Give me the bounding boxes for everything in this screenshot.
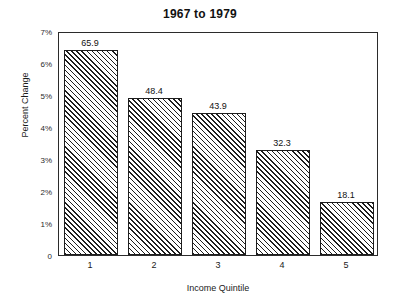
y-axis-tick-label: 2% (40, 188, 52, 197)
y-axis-tick-label: 7% (40, 28, 52, 37)
x-axis-title: Income Quintile (58, 283, 378, 293)
x-axis-tick-label: 2 (151, 260, 156, 270)
chart-title: 1967 to 1979 (0, 7, 400, 21)
y-axis-tick-label: 1% (40, 220, 52, 229)
y-axis-tick-label: 6% (40, 60, 52, 69)
y-axis-tick-label: 3% (40, 156, 52, 165)
x-axis-tick-label: 3 (215, 260, 220, 270)
x-axis-tick-label: 5 (343, 260, 348, 270)
bar (256, 150, 309, 255)
y-axis-tick-label: 4% (40, 124, 52, 133)
bar (192, 113, 245, 255)
bar (128, 98, 181, 255)
y-axis-tick-labels: 01%2%3%4%5%6%7% (0, 0, 54, 303)
plot-area (58, 32, 378, 256)
bar (320, 202, 373, 255)
x-axis-tick-label: 1 (87, 260, 92, 270)
bar-chart-figure: 1967 to 1979 Percent Change 01%2%3%4%5%6… (0, 0, 400, 303)
y-axis-tick-label: 5% (40, 92, 52, 101)
bar (64, 50, 117, 255)
x-axis-tick-labels: 12345 (58, 260, 378, 278)
x-axis-tick-label: 4 (279, 260, 284, 270)
y-axis-tick-label: 0 (48, 252, 52, 261)
